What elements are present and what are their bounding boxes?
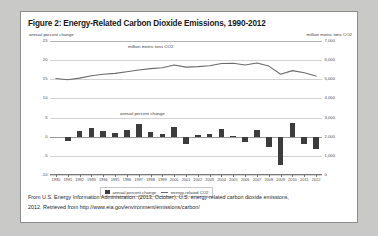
x-axis-tick-label: 2011	[300, 178, 308, 182]
x-axis-tick-label: 2009	[276, 178, 285, 182]
y2-axis-tick-label: 7,000	[322, 39, 335, 43]
x-axis-tick-label: 2012	[312, 178, 321, 182]
y2-axis-tick-label: 0	[322, 173, 327, 177]
x-axis-tick-label: 2000	[170, 178, 179, 182]
left-axis-caption: annual percent change	[29, 32, 74, 37]
x-axis-tick-label: 2007	[253, 178, 262, 182]
y-axis-tick-label: 15	[43, 77, 50, 81]
x-axis-tick-label: 1999	[158, 178, 167, 182]
caption-line-1: From U.S. Energy Information Administrat…	[28, 192, 350, 202]
x-axis-tick-label: 2010	[288, 178, 297, 182]
x-axis-tick-label: 1998	[146, 178, 155, 182]
x-axis-tick-label: 1996	[123, 178, 132, 182]
caption-line-2: 2012. Retrieved from http://www.eia.gov/…	[28, 202, 350, 212]
page-title: Figure 2: Energy-Related Carbon Dioxide …	[28, 19, 266, 28]
y-axis-tick-label: 20	[43, 58, 50, 62]
y2-axis-tick-label: 3,000	[322, 116, 335, 120]
x-axis-tick-label: 2001	[182, 178, 191, 182]
x-axis-tick-label: 1995	[111, 178, 120, 182]
y-axis-tick-label: 25	[43, 39, 50, 43]
figure-card: Figure 2: Energy-Related Carbon Dioxide …	[20, 11, 358, 223]
x-axis-tick-label: 1992	[75, 178, 84, 182]
y2-axis-tick-label: 1,000	[322, 154, 335, 158]
y2-axis-tick-label: 5,000	[322, 77, 335, 81]
chart-area: annual percent change million metric ton…	[28, 32, 352, 195]
x-axis-tick-label: 1993	[87, 178, 96, 182]
y2-axis-tick-label: 2,000	[322, 135, 335, 139]
line-series-label: million metric tons CO2	[128, 44, 173, 49]
x-axis-tick-label: 2003	[205, 178, 214, 182]
figure-caption: From U.S. Energy Information Administrat…	[28, 192, 350, 212]
x-axis-tick-label: 2002	[193, 178, 202, 182]
x-axis-tick-label: 2005	[229, 178, 238, 182]
x-axis-tick-label: 1991	[63, 178, 72, 182]
x-axis-tick-label: 1990	[52, 178, 61, 182]
x-axis-tick-label: 2006	[241, 178, 250, 182]
x-axis-tick-label: 2004	[217, 178, 226, 182]
y2-axis-tick-label: 4,000	[322, 96, 335, 100]
x-axis-labels: 1990199119921993199419951996199719981999…	[50, 177, 322, 186]
y2-axis-tick-label: 6,000	[322, 58, 335, 62]
x-axis-tick-label: 1994	[99, 178, 108, 182]
bar-series-label: annual percent change	[120, 111, 165, 116]
y-axis-tick-label: 10	[43, 96, 50, 100]
y-axis-tick-label: -10	[41, 173, 50, 177]
right-axis-caption: million metric tons CO2	[307, 32, 352, 37]
plot-region: 257,000206,000155,000104,00053,00002,000…	[50, 41, 322, 175]
x-axis-tick-label: 2008	[264, 178, 273, 182]
line-series	[50, 41, 322, 175]
x-axis-tick-label: 1997	[134, 178, 143, 182]
